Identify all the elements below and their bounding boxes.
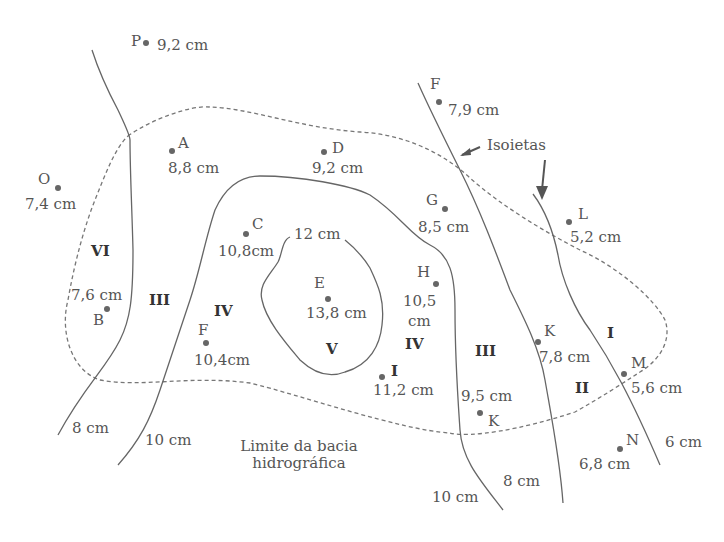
station-F-east-value: 7,9 cm xyxy=(448,102,499,119)
station-G-dot xyxy=(442,206,448,212)
station-K-dot xyxy=(535,339,541,345)
zone-IV-west: IV xyxy=(214,302,233,320)
station-N-dot xyxy=(617,446,623,452)
zone-IV-east: IV xyxy=(405,335,424,353)
station-M-dot xyxy=(621,371,627,377)
basin-label-line1: Limite da bacia xyxy=(225,438,373,455)
station-M-value: 5,6 cm xyxy=(631,380,682,397)
station-O-value: 7,4 cm xyxy=(25,196,76,213)
station-D-dot xyxy=(321,149,327,155)
station-I-dot xyxy=(379,374,385,380)
station-C-name: C xyxy=(252,216,263,233)
station-L-name: L xyxy=(578,206,588,223)
station-I-name: I xyxy=(391,362,398,380)
station-F-west-name: F xyxy=(198,322,208,339)
station-H-value-2: cm xyxy=(408,313,431,330)
station-K-value: 7,8 cm xyxy=(539,349,590,366)
basin-label-line2: hidrográfica xyxy=(225,455,373,472)
station-B-name: B xyxy=(93,312,104,329)
isohyet-label-8cm-left: 8 cm xyxy=(72,420,109,437)
isohyet-label-8cm-right: 8 cm xyxy=(503,473,540,490)
station-G-name: G xyxy=(426,192,438,209)
station-L-dot xyxy=(566,219,572,225)
station-C-dot xyxy=(243,231,249,237)
station-M-name: M xyxy=(631,355,646,372)
station-J-name: K xyxy=(488,413,499,430)
station-G-value: 8,5 cm xyxy=(418,219,469,236)
station-I-value: 11,2 cm xyxy=(373,382,434,399)
basin-label: Limite da bacia hidrográfica xyxy=(225,438,373,472)
station-B-dot xyxy=(104,306,110,312)
zone-III-east: III xyxy=(475,342,496,360)
station-P-name: P xyxy=(131,33,141,50)
station-F-west-dot xyxy=(203,340,209,346)
isohyet-label-6cm: 6 cm xyxy=(665,434,702,451)
station-N-name: N xyxy=(626,432,639,449)
station-B-value: 7,6 cm xyxy=(71,287,122,304)
station-J-dot xyxy=(477,410,483,416)
station-D-value: 9,2 cm xyxy=(312,160,363,177)
zone-V: V xyxy=(326,340,338,358)
isohyet-label-10cm-right: 10 cm xyxy=(432,489,478,506)
zone-II: II xyxy=(575,379,589,397)
arrow-isoietas-1-head xyxy=(460,148,471,156)
isohyet-label-12cm: 12 cm xyxy=(294,226,340,243)
zone-VI: VI xyxy=(91,242,110,260)
zone-III-west: III xyxy=(149,291,170,309)
station-D-name: D xyxy=(332,140,344,157)
station-O-dot xyxy=(55,185,61,191)
station-O-name: O xyxy=(38,171,50,188)
arrow-isoietas-2-head xyxy=(536,186,548,200)
station-H-name: H xyxy=(417,264,430,281)
isohyet-map: P 9,2 cm A 8,8 cm D 9,2 cm O 7,4 cm C 10… xyxy=(0,0,724,542)
zone-I: I xyxy=(607,324,614,342)
isohyet-label-10cm-left: 10 cm xyxy=(145,432,191,449)
arrow-isoietas-2 xyxy=(542,160,545,190)
station-A-dot xyxy=(169,148,175,154)
station-F-east-dot xyxy=(436,99,442,105)
station-E-dot xyxy=(325,296,331,302)
station-K-name: K xyxy=(544,323,555,340)
station-H-dot xyxy=(433,281,439,287)
station-F-west-value: 10,4cm xyxy=(194,352,250,369)
station-H-value-1: 10,5 xyxy=(403,293,436,310)
station-E-value: 13,8 cm xyxy=(306,305,367,322)
station-A-name: A xyxy=(178,135,189,152)
station-N-value: 6,8 cm xyxy=(579,456,630,473)
station-L-value: 5,2 cm xyxy=(570,229,621,246)
station-F-east-name: F xyxy=(430,76,440,93)
station-P-value: 9,2 cm xyxy=(157,37,208,54)
station-A-value: 8,8 cm xyxy=(168,160,219,177)
station-J-value: 9,5 cm xyxy=(461,388,512,405)
station-C-value: 10,8cm xyxy=(218,243,274,260)
station-P-dot xyxy=(143,40,149,46)
station-E-name: E xyxy=(314,275,325,292)
isoietas-annotation: Isoietas xyxy=(487,137,546,154)
